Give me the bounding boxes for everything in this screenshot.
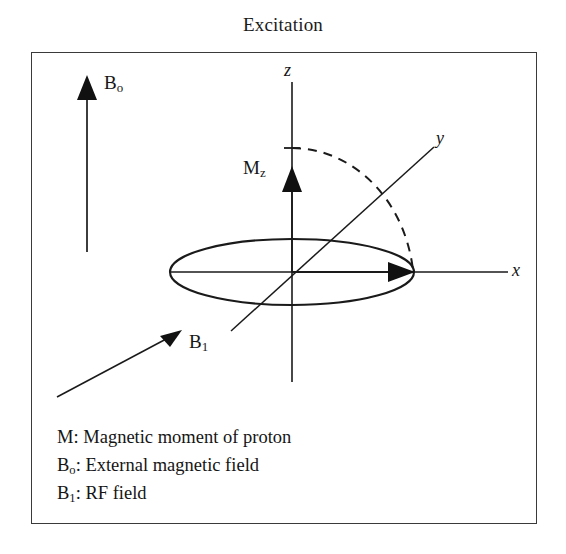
y-axis-label: y: [436, 128, 444, 149]
legend-symbol-b0: B: [57, 455, 69, 475]
legend-text-b1: : RF field: [76, 483, 147, 503]
z-axis-label: z: [284, 60, 291, 81]
b1-subscript: 1: [202, 339, 208, 354]
legend-text-b0: : External magnetic field: [76, 455, 259, 475]
mz-vector-label: Mz: [243, 157, 266, 181]
legend-text-m: : Magnetic moment of proton: [73, 427, 291, 447]
x-axis-label: x: [512, 260, 520, 281]
mz-subscript: z: [260, 165, 266, 180]
legend-symbol-m: M: [57, 427, 73, 447]
legend-symbol-b1: B: [57, 483, 69, 503]
figure-root: Excitation z y x Bo B1: [0, 0, 566, 554]
legend-item-m: M: Magnetic moment of proton: [57, 424, 291, 452]
legend-item-b1: B1: RF field: [57, 480, 291, 508]
legend: M: Magnetic moment of proton Bo: Externa…: [57, 424, 291, 508]
b0-symbol: B: [104, 72, 117, 93]
figure-title: Excitation: [0, 14, 566, 36]
b1-vector-label: B1: [189, 331, 208, 355]
b0-subscript: o: [117, 80, 123, 95]
mz-symbol: M: [243, 157, 260, 178]
legend-item-b0: Bo: External magnetic field: [57, 452, 291, 480]
b1-symbol: B: [189, 331, 202, 352]
b0-vector-label: Bo: [104, 72, 123, 96]
